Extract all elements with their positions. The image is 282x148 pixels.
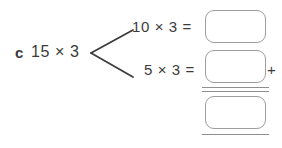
answer-box-branch-bottom[interactable] [205, 50, 266, 83]
plus-sign: + [267, 62, 276, 77]
branch-line-bottom [91, 53, 133, 77]
branch-line-top [91, 30, 133, 53]
sum-rule-lower [202, 91, 269, 92]
answer-box-branch-top[interactable] [205, 10, 266, 43]
sum-rule-upper [202, 87, 269, 88]
branch-top-expression: 10 × 3 = [132, 19, 192, 34]
root-expression: 15 × 3 [31, 44, 80, 60]
answer-box-total[interactable] [205, 96, 266, 129]
branch-bottom-expression: 5 × 3 = [144, 62, 195, 77]
total-rule-bottom [202, 134, 269, 135]
item-letter: c [15, 45, 24, 60]
worksheet-problem: c 15 × 3 10 × 3 = 5 × 3 = + [0, 0, 282, 148]
